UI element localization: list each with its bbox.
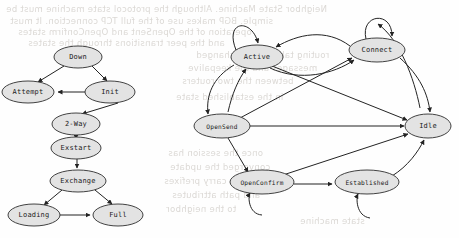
node-active[interactable]: Active <box>231 45 283 69</box>
edge-established-self-loop <box>357 194 370 218</box>
ospf-neighbor-state-machine: Down Attempt Init 2-Way Exstart <box>2 46 143 226</box>
node-openconfirm[interactable]: OpenConfirm <box>230 170 294 194</box>
edge-openconfirm-self-loop <box>249 193 262 215</box>
node-attempt-label: Attempt <box>13 88 44 96</box>
edge-opensend-openconfirm <box>228 138 248 172</box>
node-connect[interactable]: Connect <box>349 38 405 62</box>
node-exchange[interactable]: Exchange <box>50 170 106 192</box>
node-idle[interactable]: Idle <box>405 114 451 138</box>
scanned-page: Neighbor State Machine. Although the pro… <box>0 0 459 238</box>
state-machine-diagrams: Down Attempt Init 2-Way Exstart <box>0 0 459 238</box>
node-loading[interactable]: Loading <box>8 204 60 226</box>
node-attempt[interactable]: Attempt <box>2 81 54 103</box>
bgp-finite-state-machine: Active Connect OpenSend Idle OpenConfirm <box>194 18 451 218</box>
node-down-label: Down <box>69 53 87 61</box>
node-active-label: Active <box>244 53 271 61</box>
edge-established-idle <box>392 140 424 176</box>
edge-idle-connect <box>378 24 420 108</box>
node-down[interactable]: Down <box>54 46 102 68</box>
edge-down-attempt <box>38 66 64 82</box>
node-2-way[interactable]: 2-Way <box>52 113 100 135</box>
node-idle-label: Idle <box>419 122 437 130</box>
edge-active-idle <box>272 66 407 120</box>
ospf-nodes: Down Attempt Init 2-Way Exstart <box>2 46 143 226</box>
edge-exchange-full <box>95 190 112 204</box>
edge-opensend-active <box>228 69 246 112</box>
edge-connect-self-loop <box>365 18 392 39</box>
node-exstart-label: Exstart <box>61 144 92 152</box>
node-exstart[interactable]: Exstart <box>51 137 101 159</box>
node-established-label: Established <box>345 179 388 186</box>
node-init[interactable]: Init <box>85 81 135 103</box>
edge-active-connect <box>270 60 354 75</box>
edge-active-opensend <box>208 65 234 114</box>
node-established[interactable]: Established <box>335 170 399 194</box>
node-init-label: Init <box>101 88 119 96</box>
edge-exchange-loading <box>44 190 62 205</box>
edge-down-init <box>92 66 107 81</box>
edge-init-twoway <box>82 103 118 114</box>
edge-openconfirm-idle <box>280 134 408 176</box>
edge-connect-active <box>276 35 350 47</box>
node-loading-label: Loading <box>19 211 50 219</box>
node-full-label: Full <box>109 211 127 219</box>
node-connect-label: Connect <box>362 46 393 54</box>
node-opensend[interactable]: OpenSend <box>194 114 250 138</box>
node-openconfirm-label: OpenConfirm <box>240 179 283 187</box>
node-exchange-label: Exchange <box>60 177 95 185</box>
node-full[interactable]: Full <box>93 204 143 226</box>
edge-connect-idle <box>400 58 430 112</box>
node-opensend-label: OpenSend <box>206 123 237 131</box>
bgp-nodes: Active Connect OpenSend Idle OpenConfirm <box>194 38 451 194</box>
node-2-way-label: 2-Way <box>65 120 87 128</box>
